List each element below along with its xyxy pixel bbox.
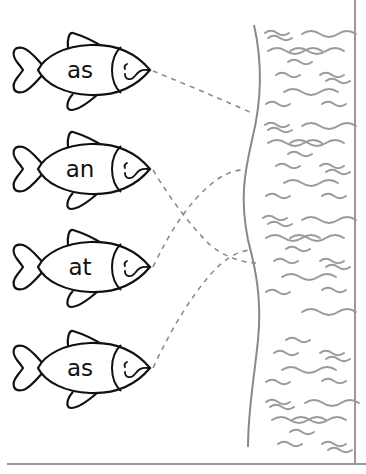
connection-line-1[interactable]	[153, 71, 252, 113]
fish-label: as	[67, 57, 93, 83]
connection-line-4[interactable]	[153, 250, 250, 368]
fish-1[interactable]: as	[14, 33, 150, 110]
fish-label: as	[67, 355, 93, 381]
connection-lines	[153, 71, 256, 368]
connection-line-2[interactable]	[153, 170, 256, 263]
river-bank-line	[244, 25, 260, 447]
fish-2[interactable]: an	[14, 132, 150, 209]
connection-line-3[interactable]	[153, 170, 243, 267]
fish-4[interactable]: as	[14, 331, 150, 408]
fish-label: an	[66, 156, 95, 182]
matching-worksheet: as an at as	[0, 0, 366, 474]
fish-3[interactable]: at	[14, 230, 150, 307]
water-waves	[263, 31, 359, 453]
fish-label: at	[68, 254, 91, 280]
